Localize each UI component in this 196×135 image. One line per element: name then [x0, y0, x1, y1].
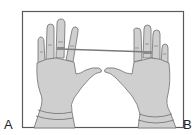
panel-label-b: B [183, 118, 192, 131]
gloved-hands-illustration [0, 0, 196, 135]
panel-label-a: A [4, 118, 13, 131]
band-loop-left [57, 47, 65, 50]
band-loop-right [143, 51, 152, 54]
